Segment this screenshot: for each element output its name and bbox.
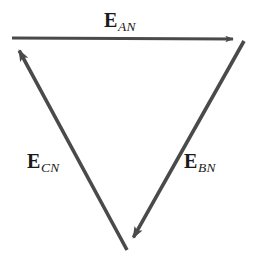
vector-arrow-ebn — [133, 41, 244, 237]
vector-label-ebn: EBN — [184, 151, 215, 171]
phasor-diagram-figure: EAN ECN EBN — [0, 0, 257, 267]
vector-label-ean-subscript: AN — [118, 19, 136, 34]
vector-label-ebn-symbol: E — [184, 150, 198, 172]
vector-arrow-ean — [12, 38, 233, 39]
vector-label-ecn-symbol: E — [27, 150, 41, 172]
vector-label-ecn-subscript: CN — [41, 160, 60, 175]
vector-label-ebn-subscript: BN — [198, 160, 216, 175]
vector-label-ecn: ECN — [27, 151, 59, 171]
vector-label-ean: EAN — [104, 10, 135, 30]
vector-triangle-graphic — [0, 0, 257, 267]
vector-label-ean-symbol: E — [104, 9, 118, 31]
